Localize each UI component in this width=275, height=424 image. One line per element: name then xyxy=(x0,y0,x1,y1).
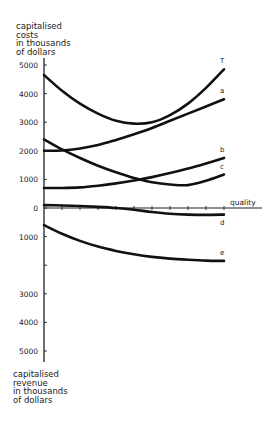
y-tick-label: 4000 xyxy=(19,90,38,99)
axes xyxy=(44,58,262,362)
curve-t xyxy=(44,69,224,123)
y-tick-label: 2000 xyxy=(19,147,38,156)
y-tick-label: 5000 xyxy=(19,61,38,70)
curve-label-t: T xyxy=(219,57,225,65)
y-tick-label: 5000 xyxy=(19,347,38,356)
x-axis-label: quality xyxy=(230,198,256,207)
tick-labels: 5000400030002000100001000300040005000 xyxy=(19,61,38,356)
curve-c xyxy=(44,139,224,185)
y-tick-label: 1000 xyxy=(19,175,38,184)
chart-plot: 5000400030002000100001000300040005000 Ta… xyxy=(0,0,275,424)
curve-e xyxy=(44,225,224,261)
curves: Tabcde xyxy=(44,57,225,261)
y-tick-label: 3000 xyxy=(19,290,38,299)
curve-a xyxy=(44,99,224,150)
curve-label-c: c xyxy=(220,163,224,171)
y-tick-label: 1000 xyxy=(19,233,38,242)
curve-label-a: a xyxy=(220,87,224,95)
curve-label-d: d xyxy=(220,219,224,227)
curve-label-e: e xyxy=(220,249,224,257)
y-tick-label: 0 xyxy=(33,204,38,213)
curve-label-b: b xyxy=(220,146,225,154)
y-tick-label: 3000 xyxy=(19,118,38,127)
y-tick-label: 4000 xyxy=(19,318,38,327)
